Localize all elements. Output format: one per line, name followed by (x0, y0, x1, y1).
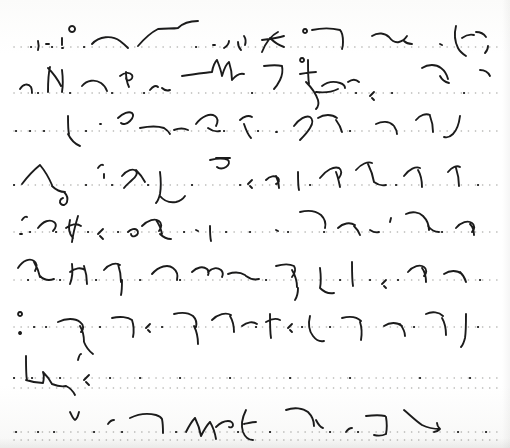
dotted-ruling-lines (0, 0, 510, 448)
rule-group (14, 47, 498, 440)
manuscript-page: Shorthand Manuscript Page (0, 0, 510, 448)
